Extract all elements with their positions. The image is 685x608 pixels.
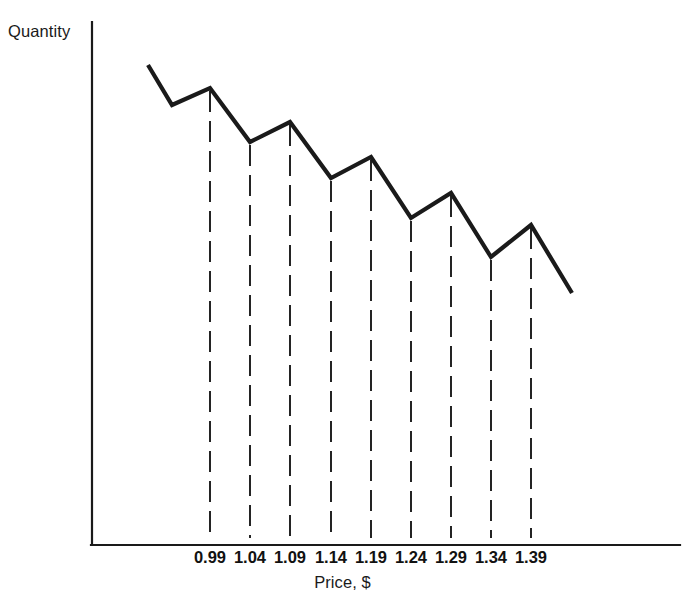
x-tick-label: 1.39 [515, 548, 547, 567]
y-axis-title: Quantity [8, 22, 70, 41]
x-tick-label: 1.34 [475, 548, 507, 567]
chart-canvas [0, 0, 685, 608]
x-tick-label: 1.14 [315, 548, 347, 567]
demand-curve [148, 65, 572, 293]
demand-curve-figure: Quantity Price, $ 0.991.041.091.141.191.… [0, 0, 685, 608]
x-tick-label: 1.09 [274, 548, 306, 567]
x-tick-label: 0.99 [194, 548, 226, 567]
x-axis-title: Price, $ [0, 573, 685, 592]
x-tick-label: 1.24 [395, 548, 427, 567]
demand-curve-line [148, 65, 572, 293]
x-tick-label: 1.04 [234, 548, 266, 567]
x-tick-label: 1.29 [435, 548, 467, 567]
x-tick-label: 1.19 [355, 548, 387, 567]
